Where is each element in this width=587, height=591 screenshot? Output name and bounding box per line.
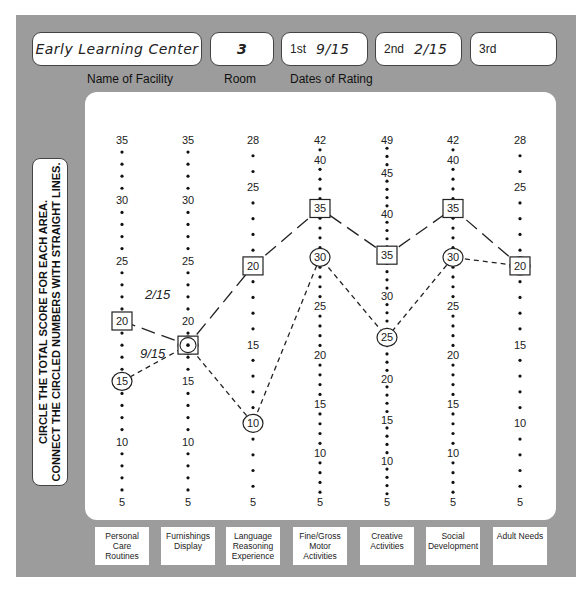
score-dot[interactable]	[120, 368, 123, 371]
score-dot[interactable]	[451, 373, 454, 376]
score-dot[interactable]	[451, 461, 454, 464]
score-dot[interactable]	[385, 270, 388, 273]
score-dot[interactable]	[318, 275, 321, 278]
tick-label[interactable]: 10	[182, 436, 194, 448]
tick-label[interactable]: 10	[514, 417, 526, 429]
score-dot[interactable]	[120, 356, 123, 359]
score-dot[interactable]	[518, 280, 521, 283]
score-dot[interactable]	[385, 385, 388, 388]
score-dot[interactable]	[186, 187, 189, 190]
score-dot[interactable]	[186, 247, 189, 250]
score-dot[interactable]	[120, 392, 123, 395]
score-dot[interactable]	[318, 148, 321, 151]
score-dot[interactable]	[385, 451, 388, 454]
score-dot[interactable]	[518, 217, 521, 220]
score-dot[interactable]	[318, 432, 321, 435]
score-dot[interactable]	[385, 163, 388, 166]
score-dot[interactable]	[318, 491, 321, 494]
tick-label[interactable]: 5	[250, 496, 256, 508]
score-dot[interactable]	[120, 211, 123, 214]
circled-score[interactable]: 30	[310, 248, 330, 266]
tick-label[interactable]: 15	[182, 375, 194, 387]
circled-score[interactable]: 30	[443, 248, 463, 266]
score-dot[interactable]	[518, 154, 521, 157]
score-dot[interactable]	[318, 442, 321, 445]
tick-label[interactable]: 20	[447, 349, 459, 361]
score-dot[interactable]	[186, 307, 189, 310]
tick-label[interactable]: 30	[381, 290, 393, 302]
score-dot[interactable]	[385, 484, 388, 487]
score-dot[interactable]	[251, 312, 254, 315]
score-dot[interactable]	[518, 233, 521, 236]
score-dot[interactable]	[318, 187, 321, 190]
score-dot[interactable]	[318, 393, 321, 396]
tick-label[interactable]: 10	[314, 447, 326, 459]
tick-label[interactable]: 40	[381, 208, 393, 220]
tick-label[interactable]: 28	[514, 134, 526, 146]
score-dot[interactable]	[251, 296, 254, 299]
tick-label[interactable]: 35	[182, 134, 194, 146]
tick-label[interactable]: 30	[182, 194, 194, 206]
tick-label[interactable]: 49	[381, 134, 393, 146]
score-dot[interactable]	[385, 286, 388, 289]
score-dot[interactable]	[385, 369, 388, 372]
tick-label[interactable]: 25	[447, 300, 459, 312]
score-dot[interactable]	[451, 178, 454, 181]
score-dot[interactable]	[120, 428, 123, 431]
tick-label[interactable]: 25	[247, 181, 259, 193]
tick-label[interactable]: 42	[314, 134, 326, 146]
score-dot[interactable]	[385, 492, 388, 495]
score-dot[interactable]	[186, 356, 189, 359]
tick-label[interactable]: 5	[317, 496, 323, 508]
score-dot[interactable]	[186, 488, 189, 491]
score-dot[interactable]	[451, 344, 454, 347]
score-dot[interactable]	[318, 324, 321, 327]
score-dot[interactable]	[186, 404, 189, 407]
score-dot[interactable]	[385, 361, 388, 364]
score-dot[interactable]	[518, 201, 521, 204]
score-dot[interactable]	[120, 452, 123, 455]
score-dot[interactable]	[251, 233, 254, 236]
boxed-score[interactable]: 20	[112, 312, 132, 330]
score-dot[interactable]	[385, 319, 388, 322]
score-dot[interactable]	[318, 373, 321, 376]
score-dot[interactable]	[451, 187, 454, 190]
score-dot[interactable]	[251, 280, 254, 283]
score-dot[interactable]	[385, 435, 388, 438]
score-dot[interactable]	[120, 271, 123, 274]
tick-label[interactable]: 20	[182, 315, 194, 327]
circled-score[interactable]: 10	[243, 414, 263, 432]
score-dot[interactable]	[385, 311, 388, 314]
score-dot[interactable]	[318, 295, 321, 298]
tick-label[interactable]: 15	[247, 339, 259, 351]
score-dot[interactable]	[385, 352, 388, 355]
score-dot[interactable]	[318, 422, 321, 425]
score-dot[interactable]	[251, 406, 254, 409]
score-dot[interactable]	[251, 154, 254, 157]
score-dot[interactable]	[120, 464, 123, 467]
score-dot[interactable]	[385, 426, 388, 429]
score-dot[interactable]	[518, 374, 521, 377]
tick-label[interactable]: 15	[314, 398, 326, 410]
score-dot[interactable]	[385, 237, 388, 240]
score-dot[interactable]	[318, 178, 321, 181]
tick-label[interactable]: 15	[447, 398, 459, 410]
boxed-score[interactable]: 35	[377, 246, 397, 264]
score-dot[interactable]	[518, 249, 521, 252]
score-dot[interactable]	[186, 428, 189, 431]
score-dot[interactable]	[385, 221, 388, 224]
tick-label[interactable]: 10	[381, 455, 393, 467]
score-dot[interactable]	[318, 363, 321, 366]
tick-label[interactable]: 42	[447, 134, 459, 146]
score-dot[interactable]	[451, 295, 454, 298]
boxed-score[interactable]: 20	[243, 257, 263, 275]
tick-label[interactable]: 25	[514, 181, 526, 193]
tick-label[interactable]: 28	[247, 134, 259, 146]
score-dot[interactable]	[251, 437, 254, 440]
score-dot[interactable]	[385, 402, 388, 405]
score-dot[interactable]	[186, 464, 189, 467]
score-dot[interactable]	[385, 303, 388, 306]
score-dot[interactable]	[186, 211, 189, 214]
score-dot[interactable]	[318, 461, 321, 464]
score-dot[interactable]	[451, 236, 454, 239]
